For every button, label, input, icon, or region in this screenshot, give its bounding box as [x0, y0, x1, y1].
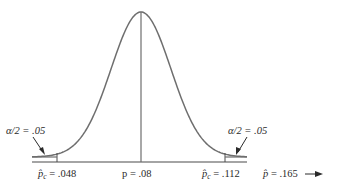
alpha-right-label: α/2 = .05 [228, 125, 267, 136]
center-label: p = .08 [122, 168, 152, 179]
critical-right-label: p̂c = .112 [201, 168, 240, 181]
alpha-left-label: α/2 = .05 [6, 125, 45, 136]
observed-label: p̂ = .165 [262, 168, 298, 179]
normal-curve [32, 12, 247, 157]
critical-left-label: p̂c = .048 [37, 168, 76, 181]
right-arrow-icon [315, 171, 323, 177]
normal-curve-diagram: α/2 = .05 α/2 = .05 p̂c = .048 p = .08 p… [0, 0, 341, 190]
